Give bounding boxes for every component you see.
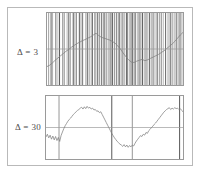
panel-label-delta-30: Δ = 30: [15, 122, 41, 132]
chart-panel-delta-30: [45, 95, 184, 160]
panel-label-delta-3: Δ = 3: [17, 47, 38, 57]
signal-curve: [46, 106, 183, 147]
plot-area-delta-30: [46, 96, 183, 159]
figure-container: Δ = 3 Δ = 30: [0, 0, 201, 173]
plot-area-delta-3: [47, 13, 183, 85]
chart-panel-delta-3: [46, 12, 184, 86]
